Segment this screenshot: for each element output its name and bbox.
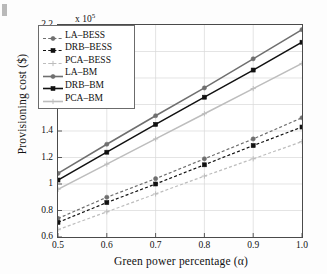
legend-label: DRB–BM: [64, 81, 104, 91]
x-axis-tick-label: 0.6: [92, 241, 122, 251]
legend-swatch: [42, 30, 64, 41]
data-point-marker-circle: [154, 177, 158, 181]
data-point-marker-square: [105, 150, 109, 154]
y-axis-tick-label: 1.4: [27, 126, 53, 136]
series-line: [58, 118, 302, 219]
y-axis-exponent-label: x 105: [75, 12, 95, 24]
data-point-marker-square: [202, 163, 206, 167]
legend-swatch-svg: [42, 96, 64, 107]
data-point-marker-square: [202, 95, 206, 99]
data-point-marker-square: [300, 40, 302, 44]
legend-swatch: [42, 80, 64, 91]
legend-item-drb-bess: DRB–BESS: [42, 42, 130, 55]
legend-item-la-bess: LA–BESS: [42, 29, 130, 42]
series-drb-bess: [58, 125, 302, 224]
data-point-marker-circle: [105, 195, 109, 199]
legend-item-la-bm: LA–BM: [42, 67, 130, 80]
data-point-marker-circle: [154, 114, 158, 118]
legend-item-pca-bess: PCA–BESS: [42, 54, 130, 67]
y-axis-tick-label: 0.8: [27, 206, 53, 216]
x-axis-tick-label: 0.8: [189, 241, 219, 251]
legend-item-pca-bm: PCA–BM: [42, 92, 130, 105]
data-point-marker-square: [58, 178, 60, 182]
legend-swatch: [42, 68, 64, 79]
data-point-marker-circle: [300, 116, 302, 120]
legend-label: PCA–BESS: [64, 56, 111, 66]
legend-label: LA–BM: [64, 68, 97, 78]
x-axis-label: Green power percentage (α): [57, 255, 305, 267]
legend-label: PCA–BM: [64, 94, 103, 104]
series-la-bess: [58, 116, 302, 221]
x-axis-tick-label: 0.7: [141, 241, 171, 251]
data-point-marker-square: [58, 220, 60, 224]
legend: LA–BESSDRB–BESSPCA–BESSLA–BMDRB–BMPCA–BM: [38, 25, 135, 109]
data-point-marker-circle: [251, 57, 255, 61]
legend-swatch: [42, 55, 64, 66]
legend-swatch: [42, 93, 64, 104]
data-point-marker-circle: [58, 216, 60, 220]
series-line: [58, 142, 302, 230]
data-point-marker-square: [251, 68, 255, 72]
data-point-marker-square: [51, 87, 55, 91]
y-axis-tick-label: 1.2: [27, 153, 53, 163]
series-line: [58, 127, 302, 222]
legend-label: LA–BESS: [64, 31, 105, 41]
data-point-marker-circle: [202, 86, 206, 90]
x-axis-tick-label: 0.9: [238, 241, 268, 251]
x-axis-tick-label: 0.5: [43, 241, 73, 251]
data-point-marker-square: [154, 122, 158, 126]
data-point-marker-circle: [105, 142, 109, 146]
data-point-marker-circle: [251, 137, 255, 141]
data-point-marker-circle: [202, 157, 206, 161]
page-artifact-mark: [2, 4, 7, 16]
data-point-marker-circle: [51, 36, 55, 40]
data-point-marker-circle: [51, 74, 55, 78]
figure-container: Provisioning cost ($) x 105 0.60.811.21.…: [0, 0, 327, 274]
y-axis-exponent-base: x 10: [75, 14, 92, 24]
y-axis-tick-label: 1: [27, 179, 53, 189]
legend-item-drb-bm: DRB–BM: [42, 79, 130, 92]
data-point-marker-square: [51, 49, 55, 53]
y-axis-exponent-power: 5: [92, 12, 96, 20]
data-point-marker-circle: [58, 171, 60, 175]
data-point-marker-square: [154, 182, 158, 186]
x-axis-tick-label: 1.0: [287, 241, 317, 251]
legend-swatch: [42, 42, 64, 53]
series-pca-bess: [58, 139, 302, 232]
data-point-marker-square: [251, 144, 255, 148]
x-axis-tick-labels: 0.50.60.70.80.91.0: [57, 241, 303, 255]
data-point-marker-square: [105, 201, 109, 205]
data-point-marker-square: [300, 125, 302, 129]
legend-label: DRB–BESS: [64, 43, 112, 53]
data-point-marker-circle: [300, 28, 302, 32]
